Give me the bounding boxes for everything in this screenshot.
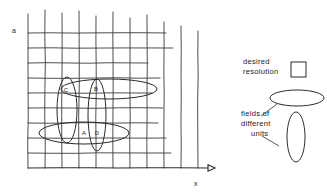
grid-line-vertical [28, 14, 29, 168]
grid-line-horizontal [28, 123, 158, 124]
field-b-ellipse [61, 79, 157, 99]
desired-resolution-square [291, 62, 306, 77]
legend-desired-resolution-line2: resolution [243, 67, 278, 76]
grid-line-horizontal [28, 78, 160, 79]
field-a-label: A [82, 130, 86, 136]
grid [28, 10, 198, 168]
x-axis-arrowhead [208, 165, 215, 171]
grid-line-vertical [198, 31, 199, 168]
legend-fields-line3: units [251, 129, 268, 138]
legend-desired-resolution-line1: desired [243, 57, 270, 66]
legend-ellipse-horizontal [270, 90, 324, 106]
y-axis-label: a [12, 27, 16, 34]
figure-canvas: a x ABCD desired resolution fields of di… [0, 0, 327, 193]
axes [28, 165, 215, 171]
grid-line-horizontal [28, 108, 163, 109]
field-c-label: C [64, 87, 69, 93]
field-d-label: D [95, 130, 100, 136]
legend-field-shapes [270, 90, 324, 162]
legend: desired resolution fields of different u… [241, 57, 324, 162]
legend-fields-line2: different [241, 119, 271, 128]
diagram-svg: a x ABCD desired resolution fields of di… [0, 0, 327, 193]
leader-to-vertical-ellipse [262, 136, 279, 146]
field-b-label: B [94, 86, 98, 92]
x-axis-label: x [194, 180, 198, 187]
grid-line-vertical [79, 11, 80, 168]
grid-line-horizontal [28, 153, 171, 154]
legend-ellipse-vertical [287, 112, 305, 162]
grid-line-vertical [45, 10, 46, 168]
legend-fields-line1: fields of [241, 109, 270, 118]
grid-line-horizontal [28, 63, 148, 64]
